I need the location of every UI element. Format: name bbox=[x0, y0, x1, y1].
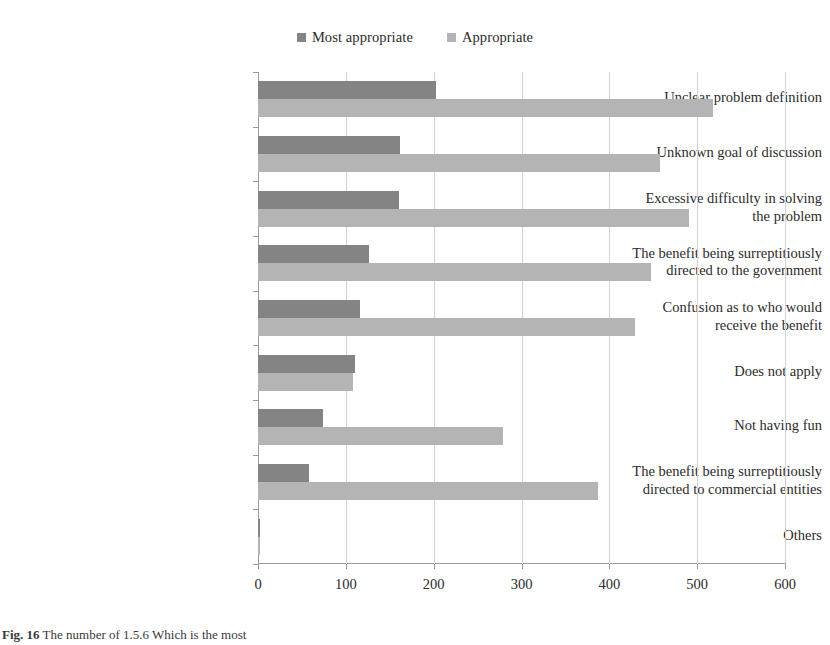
bar-appropriate-8 bbox=[258, 537, 260, 555]
x-axis-label-500: 500 bbox=[686, 576, 708, 593]
x-axis-label-600: 600 bbox=[774, 576, 796, 593]
bar-appropriate-6 bbox=[258, 427, 503, 445]
bar-most-appropriate-0 bbox=[258, 81, 436, 99]
plot-area bbox=[258, 72, 785, 564]
x-tick-0 bbox=[258, 564, 259, 569]
bar-appropriate-7 bbox=[258, 482, 598, 500]
x-axis-label-400: 400 bbox=[598, 576, 620, 593]
legend-entry-most-appropriate: Most appropriate bbox=[297, 30, 413, 45]
x-tick-600 bbox=[785, 564, 786, 569]
x-tick-500 bbox=[697, 564, 698, 569]
figure-caption: Fig. 16 The number of 1.5.6 Which is the… bbox=[2, 627, 828, 645]
x-axis-label-200: 200 bbox=[423, 576, 445, 593]
bar-appropriate-5 bbox=[258, 373, 353, 391]
bar-appropriate-0 bbox=[258, 99, 713, 117]
bar-most-appropriate-2 bbox=[258, 191, 399, 209]
y-tick-5 bbox=[253, 345, 258, 346]
bar-most-appropriate-7 bbox=[258, 464, 309, 482]
legend-label-most-appropriate: Most appropriate bbox=[312, 30, 413, 45]
bar-most-appropriate-5 bbox=[258, 355, 355, 373]
figure-caption-text: The number of 1.5.6 Which is the most bbox=[43, 627, 247, 642]
gridline-500 bbox=[697, 72, 698, 564]
y-tick-6 bbox=[253, 400, 258, 401]
chart-legend: Most appropriate Appropriate bbox=[0, 30, 830, 45]
bar-most-appropriate-3 bbox=[258, 245, 369, 263]
y-tick-8 bbox=[253, 509, 258, 510]
x-tick-300 bbox=[522, 564, 523, 569]
bar-most-appropriate-8 bbox=[258, 519, 260, 537]
gridline-600 bbox=[785, 72, 786, 564]
x-tick-200 bbox=[434, 564, 435, 569]
legend-label-appropriate: Appropriate bbox=[462, 30, 533, 45]
bar-most-appropriate-6 bbox=[258, 409, 323, 427]
x-axis-label-300: 300 bbox=[511, 576, 533, 593]
y-tick-3 bbox=[253, 236, 258, 237]
x-tick-400 bbox=[609, 564, 610, 569]
bar-appropriate-4 bbox=[258, 318, 635, 336]
bar-appropriate-1 bbox=[258, 154, 660, 172]
y-tick-0 bbox=[253, 72, 258, 73]
x-axis-label-0: 0 bbox=[254, 576, 261, 593]
x-axis-label-100: 100 bbox=[335, 576, 357, 593]
bar-appropriate-3 bbox=[258, 263, 651, 281]
y-tick-4 bbox=[253, 291, 258, 292]
y-tick-2 bbox=[253, 181, 258, 182]
x-tick-100 bbox=[346, 564, 347, 569]
y-tick-7 bbox=[253, 455, 258, 456]
legend-entry-appropriate: Appropriate bbox=[447, 30, 533, 45]
legend-swatch-most-appropriate bbox=[297, 33, 306, 42]
bar-most-appropriate-1 bbox=[258, 136, 400, 154]
figure-number: Fig. 16 bbox=[2, 627, 40, 642]
y-tick-1 bbox=[253, 127, 258, 128]
bar-most-appropriate-4 bbox=[258, 300, 360, 318]
legend-swatch-appropriate bbox=[447, 33, 456, 42]
bar-appropriate-2 bbox=[258, 209, 689, 227]
